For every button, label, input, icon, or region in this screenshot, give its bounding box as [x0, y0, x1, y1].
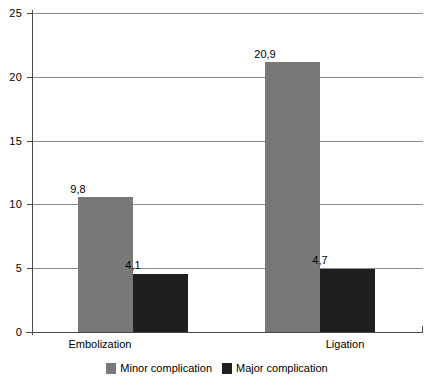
legend-label-minor: Minor complication [120, 362, 212, 374]
bar-ligation-major [320, 269, 375, 332]
y-axis-label-15: 15 [0, 136, 22, 147]
bar-value-ligation-major: 4,7 [290, 255, 350, 266]
y-axis-label-0: 0 [0, 327, 22, 338]
bar-embolization-major [133, 274, 188, 332]
bar-value-embolization-minor: 9,8 [48, 184, 108, 195]
legend-swatch-minor-icon [106, 363, 116, 374]
legend-swatch-major-icon [222, 363, 232, 374]
y-axis-label-20: 20 [0, 72, 22, 83]
y-axis-label-5: 5 [0, 263, 22, 274]
legend-item-major: Major complication [222, 362, 328, 374]
category-label-embolization: Embolization [30, 338, 170, 350]
bar-ligation-minor [265, 62, 320, 332]
bar-value-embolization-major: 4,1 [103, 260, 163, 271]
y-tick-0 [27, 332, 33, 333]
category-label-ligation: Ligation [275, 338, 415, 350]
chart-legend: Minor complication Major complication [0, 362, 434, 374]
plot-area [33, 13, 423, 332]
bar-value-ligation-minor: 20,9 [235, 49, 295, 60]
bar-chart: 25 20 15 10 5 0 9,8 4,1 20,9 4,7 Emboliz… [0, 0, 434, 383]
x-axis-baseline [26, 332, 423, 333]
legend-label-major: Major complication [236, 362, 328, 374]
y-axis-label-25: 25 [0, 8, 22, 19]
y-axis-label-10: 10 [0, 199, 22, 210]
legend-item-minor: Minor complication [106, 362, 212, 374]
